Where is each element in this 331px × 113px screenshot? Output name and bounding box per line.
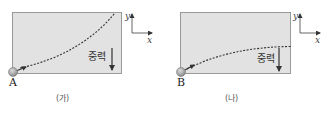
panel-na: B 중력 (나) xyxy=(177,13,292,104)
caption: (나) xyxy=(225,94,238,103)
panel-ga: A 중력 (가) xyxy=(8,13,122,104)
caption: (가) xyxy=(56,94,69,103)
axes-na: y x xyxy=(292,11,320,45)
y-axis-label: y xyxy=(124,11,131,21)
x-axis-label: x xyxy=(147,35,152,45)
axes-ga: y x xyxy=(124,11,152,45)
field-box xyxy=(13,13,122,74)
y-axis-label: y xyxy=(292,11,299,21)
gravity-label: 중력 xyxy=(257,53,275,64)
diagram-canvas: A 중력 (가) y x B 중력 (나) y x xyxy=(0,0,331,113)
point-label: B xyxy=(177,76,185,89)
x-axis-label: x xyxy=(315,35,320,45)
point-label: A xyxy=(8,76,18,89)
gravity-label: 중력 xyxy=(88,51,106,62)
